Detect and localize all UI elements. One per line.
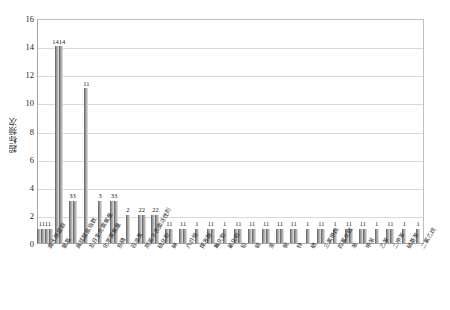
bar-value-label: 1 bbox=[306, 220, 309, 227]
bar-value-label: 1 bbox=[416, 220, 419, 227]
bar-value-label: 1 bbox=[223, 220, 226, 227]
bars-layer: 1111141433113332222211111111111111111111… bbox=[38, 20, 423, 243]
y-tick-label: 16 bbox=[18, 15, 34, 24]
bar bbox=[59, 46, 63, 243]
bar-group bbox=[93, 20, 107, 243]
bar-value-label: 11 bbox=[318, 220, 324, 227]
bar-group bbox=[218, 20, 232, 243]
bar-group bbox=[107, 20, 121, 243]
bar-value-label: 11 bbox=[291, 220, 297, 227]
bar-group bbox=[356, 20, 370, 243]
bar-group bbox=[232, 20, 246, 243]
y-tick-label: 0 bbox=[18, 240, 34, 249]
y-tick-label: 8 bbox=[18, 127, 34, 136]
bar-group bbox=[204, 20, 218, 243]
bar-group bbox=[397, 20, 411, 243]
bar-value-label: 3 bbox=[99, 192, 102, 199]
y-tick-label: 14 bbox=[18, 43, 34, 52]
bar-value-label: 11 bbox=[83, 80, 89, 87]
bar-value-label: 1 bbox=[195, 220, 198, 227]
bar-group bbox=[190, 20, 204, 243]
bar-value-label: 11 bbox=[235, 220, 241, 227]
bar-value-label: 2 bbox=[126, 206, 129, 213]
bar-value-label: 33 bbox=[111, 192, 118, 199]
x-axis-category-labels: 粪大肠菌群氨氮高锰酸盐指数五日生化需氧量化学需氧量总磷石油类阴离子表面活性剂硫化… bbox=[37, 246, 424, 310]
bar-value-label: 11 bbox=[277, 220, 283, 227]
bar-value-label: 33 bbox=[69, 192, 76, 199]
bar-value-label: 11 bbox=[166, 220, 172, 227]
bar-value-label: 11 bbox=[180, 220, 186, 227]
bar-value-label: 11 bbox=[360, 220, 366, 227]
bar-group bbox=[370, 20, 384, 243]
bar-value-label: 11 bbox=[263, 220, 269, 227]
bar-group bbox=[314, 20, 328, 243]
bar-value-label: 1414 bbox=[52, 38, 65, 45]
bar-group bbox=[328, 20, 342, 243]
y-tick-label: 12 bbox=[18, 71, 34, 80]
y-tick-label: 10 bbox=[18, 99, 34, 108]
bar bbox=[73, 201, 77, 243]
bar-value-label: 11 bbox=[249, 220, 255, 227]
y-tick-label: 2 bbox=[18, 211, 34, 220]
bar-group bbox=[287, 20, 301, 243]
bar-value-label: 1 bbox=[403, 220, 406, 227]
bar-group bbox=[52, 20, 66, 243]
bar-value-label: 11 bbox=[208, 220, 214, 227]
bar-value-label: 22 bbox=[138, 206, 145, 213]
y-axis-ticks: 0246810121416 bbox=[15, 0, 34, 310]
y-tick-label: 6 bbox=[18, 155, 34, 164]
bar-group bbox=[259, 20, 273, 243]
bar-value-label: 22 bbox=[152, 206, 159, 213]
bar-group bbox=[38, 20, 52, 243]
bar-value-label: 1 bbox=[375, 220, 378, 227]
bar-group bbox=[79, 20, 93, 243]
bar-value-label: 11 bbox=[387, 220, 393, 227]
bar-group bbox=[273, 20, 287, 243]
bar-group bbox=[66, 20, 80, 243]
bar bbox=[306, 229, 310, 243]
bar-group bbox=[176, 20, 190, 243]
bar-group bbox=[245, 20, 259, 243]
bar-value-label: 1111 bbox=[39, 220, 51, 227]
bar-group bbox=[384, 20, 398, 243]
y-tick-label: 4 bbox=[18, 183, 34, 192]
bar-group bbox=[411, 20, 425, 243]
bar-group bbox=[301, 20, 315, 243]
plot-area: 1111141433113332222211111111111111111111… bbox=[37, 19, 424, 244]
bar-chart: 超标频次 0246810121416 111114143311333222221… bbox=[0, 0, 450, 310]
bar-group bbox=[342, 20, 356, 243]
